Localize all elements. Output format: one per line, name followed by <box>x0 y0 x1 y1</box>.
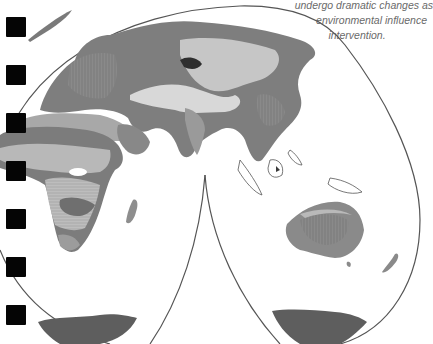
binder-hole-6 <box>6 257 26 277</box>
binder-hole-4 <box>6 161 26 181</box>
binder-hole-3 <box>6 113 26 133</box>
binder-hole-5 <box>6 209 26 229</box>
antarctica-east <box>272 309 367 344</box>
tasmania <box>347 262 351 267</box>
antarctica-west <box>38 314 137 344</box>
binder-hole-2 <box>6 65 26 85</box>
africa <box>0 127 123 252</box>
madagascar <box>126 200 137 224</box>
australia <box>286 202 364 258</box>
new-zealand <box>382 253 398 272</box>
binder-hole-7 <box>6 305 26 325</box>
binder-hole-1 <box>6 17 26 37</box>
greenland <box>28 10 72 42</box>
